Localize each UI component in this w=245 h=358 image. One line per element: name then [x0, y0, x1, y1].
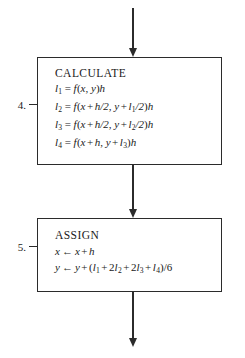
eq-l4-arg1-plus: +	[86, 136, 95, 148]
eq-l1-operator: =	[62, 82, 73, 94]
calculate-equation-list: l1=f(x, y)h l2=f(x+h/2, y+l1/2)h l3=f(x+…	[55, 81, 217, 153]
eq-l3-operator: =	[62, 118, 73, 130]
left-arrow-icon: ←	[60, 245, 75, 257]
step-number-5: 5.	[4, 241, 26, 253]
assign-y-plus: +	[80, 261, 89, 273]
arrow-head-icon	[129, 209, 137, 218]
calculate-box-content: CALCULATE l1=f(x, y)h l2=f(x+h/2, y+l1/2…	[55, 66, 217, 153]
eq-l4-arg2-plus: +	[111, 136, 120, 148]
step-4-leader-line	[29, 104, 37, 105]
arrow-shaft	[132, 165, 134, 210]
eq-l2-arg1-term: h/2	[95, 100, 109, 112]
assign-equation-list: x←x+h y←y+(l1+2l2+2l3+l4)/6	[55, 243, 217, 279]
eq-l4-arg2-var: y	[106, 136, 111, 148]
arrow-head-icon	[129, 338, 137, 347]
calculate-heading: CALCULATE	[55, 66, 217, 81]
eq-l4-operator: =	[62, 136, 73, 148]
step-5-leader-line	[29, 246, 37, 247]
eq-l2-operator: =	[62, 100, 73, 112]
eq-l3-arg1-plus: +	[86, 118, 95, 130]
eq-l3-arg2-tail: /2	[136, 118, 145, 130]
eq-l3-arg1-var: x	[81, 118, 86, 130]
assign-box-content: ASSIGN x←x+h y←y+(l1+2l2+2l3+l4)/6	[55, 228, 217, 279]
left-arrow-icon: ←	[60, 261, 75, 273]
calculate-process-box[interactable]: CALCULATE l1=f(x, y)h l2=f(x+h/2, y+l1/2…	[37, 57, 222, 165]
eq-l2-arg2-plus: +	[119, 100, 128, 112]
assign-y-op3: +	[144, 261, 153, 273]
assign-x-rhs-term: h	[89, 245, 95, 257]
eq-l3-trailing-h: h	[148, 118, 154, 130]
step-number-4: 4.	[4, 99, 26, 111]
assignment-x: x←x+h	[55, 243, 217, 259]
eq-l3-arg1-term: h/2	[95, 118, 109, 130]
equation-l4: l4=f(x+h, y+l3)h	[55, 135, 217, 153]
eq-l4-arg1-var: x	[81, 136, 86, 148]
arrow-shaft	[132, 292, 134, 339]
assign-y-op2: +	[122, 261, 131, 273]
eq-l3-arg2-plus: +	[119, 118, 128, 130]
arrow-shaft	[132, 8, 134, 49]
assign-process-box[interactable]: ASSIGN x←x+h y←y+(l1+2l2+2l3+l4)/6	[37, 218, 222, 292]
assign-heading: ASSIGN	[55, 228, 217, 243]
assign-y-divisor: /6	[164, 261, 173, 273]
eq-l2-arg1-var: x	[81, 100, 86, 112]
eq-l2-arg2-tail: /2	[136, 100, 145, 112]
eq-l2-trailing-h: h	[148, 100, 154, 112]
assign-x-plus: +	[80, 245, 89, 257]
equation-l1: l1=f(x, y)h	[55, 81, 217, 99]
eq-l2-arg1-plus: +	[86, 100, 95, 112]
equation-l2: l2=f(x+h/2, y+l1/2)h	[55, 99, 217, 117]
flowchart-canvas: 4. CALCULATE l1=f(x, y)h l2=f(x+h/2, y+l…	[0, 0, 245, 358]
assign-y-term3-subscript: 3	[139, 266, 143, 275]
eq-l4-trailing-h: h	[131, 136, 137, 148]
arrow-head-icon	[129, 48, 137, 57]
assignment-y: y←y+(l1+2l2+2l3+l4)/6	[55, 259, 217, 279]
assign-y-op1: +	[100, 261, 109, 273]
eq-l1-trailing-h: h	[100, 82, 106, 94]
equation-l3: l3=f(x+h/2, y+l2/2)h	[55, 117, 217, 135]
